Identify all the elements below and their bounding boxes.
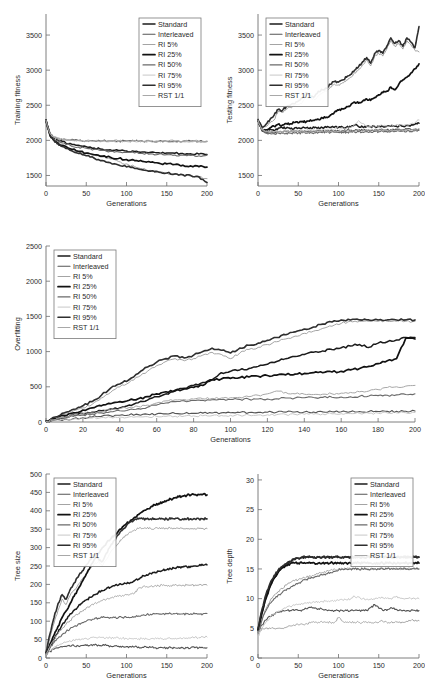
y-tick-label: 15 xyxy=(246,565,254,574)
y-axis-title: Testing fitness xyxy=(225,76,234,123)
legend-label: RI 75% xyxy=(285,71,309,80)
legend-label: RI 25% xyxy=(285,50,309,59)
x-tick-label: 60 xyxy=(153,425,161,434)
y-tick-label: 2500 xyxy=(238,101,254,110)
legend-label: Standard xyxy=(73,480,102,489)
y-tick-label: 1000 xyxy=(26,347,42,356)
legend: StandardInterleavedRI 5%RI 25%RI 50%RI 7… xyxy=(54,478,116,567)
legend-label: RI 50% xyxy=(73,292,97,301)
x-tick-label: 50 xyxy=(82,189,90,198)
panel-testing-fitness: 15002000250030003500050100150200Generati… xyxy=(212,6,425,220)
panel-training-fitness: 15002000250030003500050100150200Generati… xyxy=(0,6,213,220)
x-axis-title: Generations xyxy=(210,435,251,444)
y-axis-title: Tree size xyxy=(13,551,22,581)
chart-testing-fitness: 15002000250030003500050100150200Generati… xyxy=(212,6,425,220)
legend-label: RI 95% xyxy=(73,541,97,550)
legend-label: Standard xyxy=(370,480,399,489)
legend-label: RI 75% xyxy=(73,303,97,312)
x-axis-title: Generations xyxy=(106,671,147,680)
legend-label: RI 95% xyxy=(158,81,182,90)
x-tick-label: 160 xyxy=(335,425,347,434)
series-line-interleaved xyxy=(258,605,419,632)
legend-label: RI 95% xyxy=(370,541,394,550)
x-tick-label: 100 xyxy=(121,189,133,198)
legend-label: Standard xyxy=(158,20,187,29)
legend-label: Standard xyxy=(285,20,314,29)
series-line-interleaved xyxy=(46,120,207,142)
chart-tree-depth: 051015202530050100150200GenerationsTree … xyxy=(212,466,425,692)
y-tick-label: 2000 xyxy=(26,136,42,145)
x-tick-label: 200 xyxy=(409,425,421,434)
y-axis-title: Training fitness xyxy=(13,75,22,125)
legend-label: RI 5% xyxy=(370,500,390,509)
x-tick-label: 0 xyxy=(44,661,48,670)
y-tick-label: 5 xyxy=(250,624,254,633)
legend-label: RI 5% xyxy=(73,272,93,281)
legend-label: RI 25% xyxy=(73,282,97,291)
x-tick-label: 50 xyxy=(294,189,302,198)
y-tick-label: 150 xyxy=(30,598,42,607)
x-tick-label: 100 xyxy=(225,425,237,434)
y-tick-label: 2500 xyxy=(26,101,42,110)
legend-label: RI 95% xyxy=(285,81,309,90)
legend: StandardInterleavedRI 5%RI 25%RI 50%RI 7… xyxy=(139,18,201,107)
y-tick-label: 3500 xyxy=(26,31,42,40)
y-tick-label: 50 xyxy=(34,635,42,644)
chart-overfitting: 0500100015002000250002040608010012014016… xyxy=(0,236,425,456)
y-tick-label: 250 xyxy=(30,562,42,571)
legend-label: RI 5% xyxy=(158,40,178,49)
x-tick-label: 80 xyxy=(190,425,198,434)
legend-label: Interleaved xyxy=(73,262,109,271)
panel-tree-depth: 051015202530050100150200GenerationsTree … xyxy=(212,466,425,692)
legend-label: RI 75% xyxy=(73,531,97,540)
y-tick-label: 20 xyxy=(246,535,254,544)
x-tick-label: 150 xyxy=(373,661,385,670)
y-tick-label: 0 xyxy=(250,654,254,663)
y-tick-label: 1500 xyxy=(26,171,42,180)
y-tick-label: 200 xyxy=(30,580,42,589)
y-tick-label: 10 xyxy=(246,594,254,603)
series-line-ri-5 xyxy=(258,568,419,634)
y-axis-title: Overfitting xyxy=(13,317,22,351)
x-tick-label: 20 xyxy=(79,425,87,434)
series-line-interleaved xyxy=(46,644,207,655)
chart-training-fitness: 15002000250030003500050100150200Generati… xyxy=(0,6,213,220)
figure-container: 15002000250030003500050100150200Generati… xyxy=(0,0,425,697)
legend: StandardInterleavedRI 5%RI 25%RI 50%RI 7… xyxy=(351,478,413,567)
y-tick-label: 300 xyxy=(30,543,42,552)
y-tick-label: 3000 xyxy=(238,66,254,75)
series-line-ri-75 xyxy=(46,636,207,654)
series-line-ri-75 xyxy=(46,120,207,143)
legend: StandardInterleavedRI 5%RI 25%RI 50%RI 7… xyxy=(266,18,328,107)
y-tick-label: 30 xyxy=(246,476,254,485)
legend-label: RI 25% xyxy=(73,510,97,519)
y-tick-label: 400 xyxy=(30,506,42,515)
legend-label: RST 1/1 xyxy=(285,91,311,100)
y-tick-label: 3000 xyxy=(26,66,42,75)
x-axis-title: Generations xyxy=(318,671,359,680)
legend-label: RST 1/1 xyxy=(73,323,99,332)
x-tick-label: 200 xyxy=(413,189,425,198)
x-tick-label: 100 xyxy=(333,189,345,198)
x-tick-label: 50 xyxy=(82,661,90,670)
x-axis-title: Generations xyxy=(318,199,359,208)
x-tick-label: 200 xyxy=(413,661,425,670)
legend-label: RI 25% xyxy=(158,50,182,59)
x-tick-label: 0 xyxy=(44,189,48,198)
y-tick-label: 500 xyxy=(30,470,42,479)
legend-label: RST 1/1 xyxy=(158,91,184,100)
legend-label: RI 75% xyxy=(158,71,182,80)
panel-tree-size: 0501001502002503003504004505000501001502… xyxy=(0,466,213,692)
x-tick-label: 150 xyxy=(373,189,385,198)
legend-label: Interleaved xyxy=(73,490,109,499)
y-tick-label: 1500 xyxy=(26,312,42,321)
y-tick-label: 0 xyxy=(38,418,42,427)
legend-label: RI 5% xyxy=(73,500,93,509)
x-tick-label: 100 xyxy=(333,661,345,670)
legend-label: RI 50% xyxy=(73,520,97,529)
series-line-rst-1-1 xyxy=(46,120,207,142)
series-line-ri-75 xyxy=(258,596,419,637)
legend-label: RI 75% xyxy=(370,531,394,540)
y-axis-title: Tree depth xyxy=(225,548,234,583)
x-tick-label: 120 xyxy=(261,425,273,434)
